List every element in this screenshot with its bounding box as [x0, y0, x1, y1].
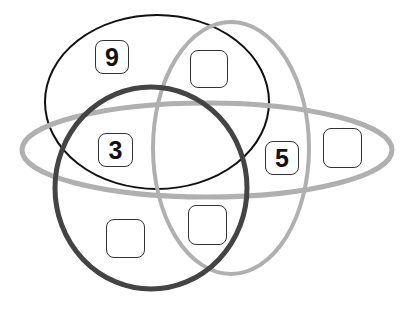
empty-box[interactable]	[188, 205, 227, 245]
number-box-3[interactable]: 3	[98, 133, 133, 167]
number-box-9[interactable]: 9	[95, 40, 129, 74]
empty-box[interactable]	[323, 128, 362, 168]
empty-box[interactable]	[190, 50, 228, 88]
empty-box[interactable]	[106, 219, 145, 258]
number-box-5[interactable]: 5	[265, 141, 299, 175]
